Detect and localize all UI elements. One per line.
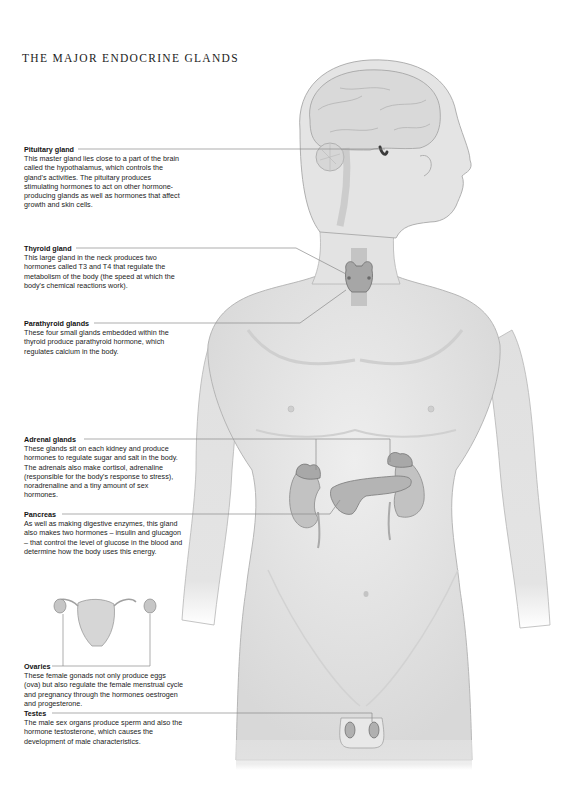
gland-description: The male sex organs produce sperm and al…: [24, 718, 184, 746]
label-pituitary-gland: Pituitary gland This master gland lies c…: [24, 145, 184, 209]
gland-description: These four small glands embedded within …: [24, 328, 184, 356]
gland-name: Parathyroid glands: [24, 319, 184, 328]
gland-name: Testes: [24, 709, 184, 718]
gland-description: This master gland lies close to a part o…: [24, 154, 184, 209]
left-adrenal-gland: [296, 464, 320, 479]
gland-description: This large gland in the neck produces tw…: [24, 253, 184, 290]
gland-name: Pancreas: [24, 510, 184, 519]
label-testes: Testes The male sex organs produce sperm…: [24, 709, 184, 746]
gland-name: Thyroid gland: [24, 244, 184, 253]
gland-description: These female gonads not only produce egg…: [24, 671, 184, 708]
label-parathyroid-glands: Parathyroid glands These four small glan…: [24, 319, 184, 356]
gland-name: Adrenal glands: [24, 435, 184, 444]
gland-name: Ovaries: [24, 662, 184, 671]
label-pancreas: Pancreas As well as making digestive enz…: [24, 510, 184, 556]
testes: [340, 718, 384, 748]
label-thyroid-gland: Thyroid gland This large gland in the ne…: [24, 244, 184, 290]
thyroid-gland: [345, 262, 372, 292]
uterus-ovaries-inset: [54, 599, 156, 646]
gland-description: As well as making digestive enzymes, thi…: [24, 519, 184, 556]
label-ovaries: Ovaries These female gonads not only pro…: [24, 662, 184, 708]
page-title: THE MAJOR ENDOCRINE GLANDS: [22, 52, 239, 64]
torso: [208, 262, 500, 770]
gland-name: Pituitary gland: [24, 145, 184, 154]
gland-description: These glands sit on each kidney and prod…: [24, 444, 184, 499]
label-adrenal-glands: Adrenal glands These glands sit on each …: [24, 435, 184, 499]
